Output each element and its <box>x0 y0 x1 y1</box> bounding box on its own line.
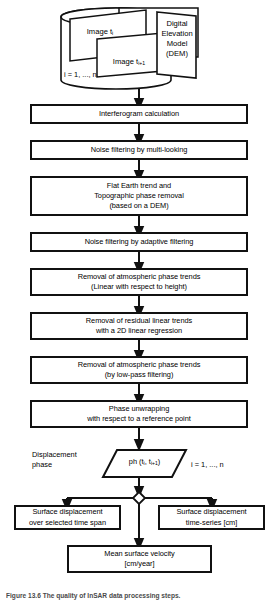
step-flat-earth[interactable]: Flat Earth trend and Topographic phase r… <box>30 176 248 216</box>
datastore-item-ti1: Image ti+1 <box>99 47 159 67</box>
datastore-item-ti: Image ti <box>70 17 130 37</box>
figure-caption: Figure 13.6 The quality of InSAR data pr… <box>6 592 274 601</box>
dem-label: Digital Elevation Model (DEM) <box>156 19 198 58</box>
output-time-span[interactable]: Surface displacement over selected time … <box>14 505 121 530</box>
step-interferogram[interactable]: Interferogram calculation <box>30 104 248 124</box>
displacement-index-note: i = 1, ..., n <box>191 460 224 470</box>
datastore-index-note: i = 1, ..., n <box>64 70 97 80</box>
displacement-phase-label: Displacement phase <box>32 450 98 470</box>
step-atmo-lowpass[interactable]: Removal of atmospheric phase trends (by … <box>30 356 248 384</box>
output-mean-velocity[interactable]: Mean surface velocity [cm/year] <box>67 545 212 573</box>
output-time-series[interactable]: Surface displacement time-series [cm] <box>158 505 265 530</box>
figure-canvas: Image ti Image ti+1 Digital Elevation Mo… <box>0 0 279 601</box>
step-residual-2d[interactable]: Removal of residual linear trends with a… <box>30 312 248 340</box>
step-atmo-height[interactable]: Removal of atmospheric phase trends (Lin… <box>30 268 248 296</box>
step-unwrap[interactable]: Phase unwrapping with respect to a refer… <box>30 400 248 428</box>
step-adaptive-filter[interactable]: Noise filtering by adaptive filtering <box>30 232 248 252</box>
step-multilook[interactable]: Noise filtering by multi-looking <box>30 140 248 160</box>
